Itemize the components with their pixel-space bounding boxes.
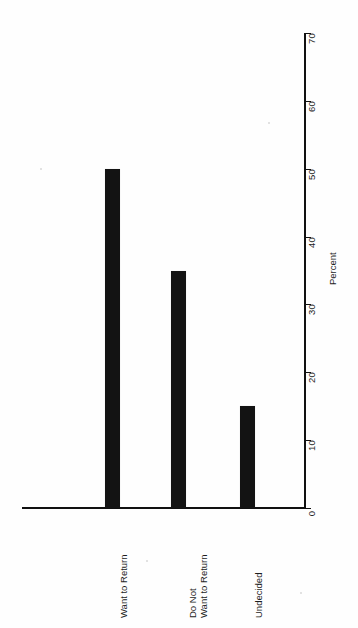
category-label: Undecided <box>253 573 264 618</box>
value-axis-tick <box>306 508 311 509</box>
value-axis-tick-label: 50 <box>306 169 317 180</box>
value-axis-title: Percent <box>327 252 338 285</box>
value-axis-tick-label: 10 <box>306 440 317 451</box>
value-axis-tick-label: 30 <box>306 304 317 315</box>
category-label-line: Want to Return <box>198 554 209 618</box>
category-label-line: Do Not <box>187 588 198 618</box>
value-axis-tick-label: 0 <box>306 511 317 516</box>
category-label-line: Want to Return <box>118 554 129 618</box>
bar <box>105 169 120 508</box>
bar-chart-plot-area: 010203040506070 Percent Want to ReturnDo… <box>0 0 358 628</box>
value-axis-tick-label: 20 <box>306 372 317 383</box>
figure-page: 010203040506070 Percent Want to ReturnDo… <box>0 0 358 628</box>
bar <box>171 271 186 509</box>
value-axis-tick-label: 40 <box>306 237 317 248</box>
category-label: Do NotWant to Return <box>187 554 209 618</box>
category-label: Want to Return <box>118 554 129 618</box>
value-axis-tick-label: 70 <box>306 33 317 44</box>
category-label-line: Undecided <box>253 573 264 618</box>
value-axis-tick-label: 60 <box>306 101 317 112</box>
bar <box>240 406 255 508</box>
category-axis-line <box>22 507 306 509</box>
